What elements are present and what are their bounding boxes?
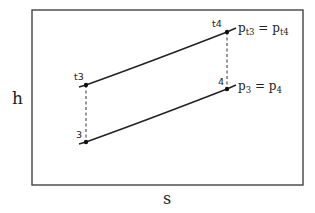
isobar-label-upper: pt3 = pt4: [238, 21, 289, 37]
point-t3: [84, 83, 88, 87]
isobar-upper: [79, 28, 236, 87]
isobar-lower: [79, 85, 236, 144]
point-t4: [225, 30, 229, 34]
y-axis-label: h: [12, 88, 23, 108]
x-axis-label: s: [163, 189, 171, 208]
isobar-label-lower: p3 = p4: [238, 79, 282, 95]
point-label-t4: t4: [212, 18, 222, 29]
hs-diagram: h s t3 3 t4 4 pt3 = pt4 p3 = p4: [0, 0, 315, 213]
point-4: [225, 87, 229, 91]
point-label-t3: t3: [74, 71, 84, 82]
point-label-4: 4: [218, 76, 224, 87]
point-3: [84, 140, 88, 144]
plot-frame: [32, 10, 303, 185]
point-label-3: 3: [76, 129, 82, 140]
